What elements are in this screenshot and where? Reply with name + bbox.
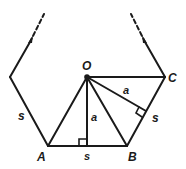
right-angle-marker-bottom (79, 139, 87, 146)
label-side-left: s (18, 109, 25, 123)
hexagon-apothem-diagram: O A B C s s s a a (0, 0, 186, 169)
label-apothem-diagonal: a (123, 84, 129, 96)
label-B: B (128, 150, 137, 164)
label-C: C (168, 71, 177, 85)
edge-left-upper (10, 42, 30, 77)
center-point-O (84, 74, 90, 80)
arrow-icon-left (28, 35, 33, 43)
edge-left-lower (10, 77, 48, 146)
label-O: O (82, 59, 92, 73)
edge-right-upper (145, 42, 165, 77)
label-side-bottom: s (84, 150, 90, 162)
label-A: A (36, 150, 46, 164)
label-side-right: s (152, 111, 159, 125)
segment-OA (48, 77, 87, 146)
arrow-icon-right (142, 35, 147, 43)
label-apothem-vertical: a (91, 111, 97, 123)
